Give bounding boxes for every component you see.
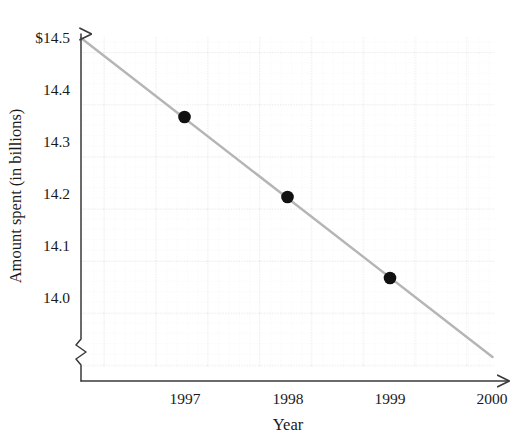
x-tick-label-1999: 1999 bbox=[375, 390, 406, 407]
data-point-1997 bbox=[178, 111, 191, 124]
chart-container: $14.5 14.4 14.3 14.2 14.1 14.0 1997 1998… bbox=[0, 0, 515, 440]
x-tick-label-1997: 1997 bbox=[170, 390, 201, 407]
y-tick-label-14-5: $14.5 bbox=[35, 29, 70, 46]
y-axis-title: Amount spent (in billions) bbox=[6, 109, 25, 284]
data-point-1999 bbox=[384, 272, 397, 285]
line-scatter-chart: $14.5 14.4 14.3 14.2 14.1 14.0 1997 1998… bbox=[0, 0, 515, 440]
y-tick-label-14-3: 14.3 bbox=[43, 133, 70, 150]
y-tick-label-14-0: 14.0 bbox=[43, 289, 70, 306]
y-tick-label-14-4: 14.4 bbox=[43, 81, 70, 98]
y-tick-label-14-2: 14.2 bbox=[43, 185, 70, 202]
x-tick-label-2000: 2000 bbox=[477, 390, 508, 407]
x-tick-label-1998: 1998 bbox=[273, 390, 304, 407]
data-point-1998 bbox=[281, 191, 294, 204]
y-tick-label-14-1: 14.1 bbox=[43, 237, 70, 254]
x-axis-title: Year bbox=[273, 415, 304, 434]
